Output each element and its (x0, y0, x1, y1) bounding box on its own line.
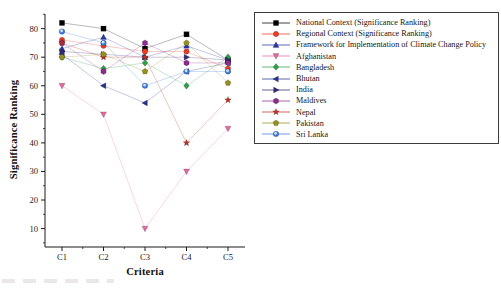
data-point-marker (142, 226, 148, 232)
legend-label: Afghanistan (296, 51, 336, 62)
y-tick-label: 80 (29, 24, 38, 34)
legend-marker-icon (261, 51, 291, 61)
legend-marker-icon (261, 29, 291, 39)
legend-marker-icon (261, 129, 291, 139)
legend-label: National Context (Significance Ranking) (296, 17, 430, 28)
x-tick-label: C4 (181, 252, 192, 262)
legend-label: Framework for Implementation of Climate … (296, 39, 486, 50)
legend-marker-glyph (273, 20, 278, 25)
legend-marker-icon (261, 62, 291, 72)
data-point-marker (184, 54, 190, 60)
data-point-marker (101, 34, 107, 40)
data-point-marker (142, 40, 147, 46)
legend-marker-glyph (273, 98, 278, 104)
legend-marker-icon (261, 85, 291, 95)
data-point-marker (101, 26, 106, 31)
data-point-marker (59, 20, 64, 25)
data-point-marker (142, 100, 148, 106)
legend-label: Sri Lanka (296, 129, 328, 140)
x-axis-title: Criteria (45, 266, 245, 277)
legend-marker-icon (261, 40, 291, 50)
legend-marker-glyph (274, 87, 280, 93)
data-point-marker (184, 40, 190, 46)
data-point-marker (142, 68, 148, 74)
legend-label: Pakistan (296, 118, 324, 129)
legend-label: Bangladesh (296, 62, 334, 73)
legend-item: Bangladesh (261, 62, 493, 73)
legend-marker-icon (261, 107, 291, 117)
faint-print-artifact (2, 279, 114, 283)
legend-label: Regional Context (Significance Ranking) (296, 28, 432, 39)
legend-item: Maldives (261, 95, 493, 106)
data-point-marker (225, 60, 230, 66)
legend-item: Sri Lanka (261, 129, 493, 140)
legend-item: Afghanistan (261, 51, 493, 62)
legend-marker-glyph (273, 64, 279, 71)
data-point-marker (101, 112, 107, 118)
series-line (62, 86, 228, 229)
data-point-marker (226, 69, 229, 72)
legend-marker-glyph (273, 76, 279, 82)
y-tick-label: 10 (29, 224, 38, 234)
legend-label: Nepal (296, 107, 316, 118)
y-tick-label: 60 (29, 81, 38, 91)
y-tick-label: 40 (29, 138, 38, 148)
data-point-marker (60, 29, 63, 32)
legend-marker-icon (261, 18, 291, 28)
data-point-marker (102, 41, 105, 44)
y-tick-label: 50 (29, 109, 38, 119)
legend-label: Bhutan (296, 73, 320, 84)
legend-marker-icon (261, 96, 291, 106)
data-point-marker (184, 60, 189, 66)
y-tick-label: 20 (29, 195, 38, 205)
legend-marker-glyph (274, 132, 277, 135)
data-point-marker (184, 32, 189, 37)
figure-canvas: 1020304050607080C1C2C3C4C5 Significance … (0, 0, 501, 289)
legend-item: Bhutan (261, 73, 493, 84)
x-tick-label: C3 (140, 252, 150, 262)
legend-item: Regional Context (Significance Ranking) (261, 28, 493, 39)
x-tick-label: C2 (98, 252, 108, 262)
legend-item: Framework for Implementation of Climate … (261, 39, 493, 50)
x-tick-label: C1 (57, 252, 67, 262)
legend: National Context (Significance Ranking)R… (254, 12, 499, 144)
data-point-marker (101, 68, 106, 74)
legend-marker-icon (261, 74, 291, 84)
data-point-marker (184, 82, 190, 89)
legend-label: India (296, 84, 313, 95)
legend-marker-icon (261, 118, 291, 128)
data-point-marker (184, 49, 189, 54)
legend-item: Pakistan (261, 118, 493, 129)
legend-marker-glyph (273, 120, 279, 126)
y-axis-title: Significance Ranking (8, 65, 19, 195)
legend-marker-glyph (273, 109, 280, 115)
legend-item: National Context (Significance Ranking) (261, 17, 493, 28)
legend-label: Maldives (296, 95, 326, 106)
legend-item: India (261, 84, 493, 95)
legend-marker-glyph (273, 31, 278, 36)
y-tick-label: 30 (29, 166, 38, 176)
data-point-marker (185, 69, 188, 72)
legend-item: Nepal (261, 107, 493, 118)
data-point-marker (59, 83, 65, 89)
data-point-marker (143, 84, 146, 87)
y-tick-label: 70 (29, 52, 38, 62)
x-tick-label: C5 (223, 252, 233, 262)
